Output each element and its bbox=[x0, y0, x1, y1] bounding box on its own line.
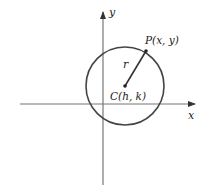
y-axis-label: y bbox=[108, 6, 116, 19]
radius-label: r bbox=[123, 58, 129, 71]
center-label: C(h, k) bbox=[110, 90, 146, 102]
x-axis-label: x bbox=[188, 109, 195, 122]
circle-diagram: y x P(x, y) r C(h, k) bbox=[0, 0, 209, 196]
diagram-canvas: y x P(x, y) r C(h, k) bbox=[0, 0, 209, 196]
point-p-label: P(x, y) bbox=[144, 34, 179, 46]
point-p bbox=[144, 49, 148, 53]
center-point bbox=[123, 84, 127, 88]
